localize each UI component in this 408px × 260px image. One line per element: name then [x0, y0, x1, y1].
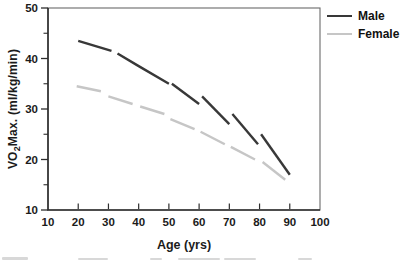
x-tick-label: 10 — [42, 216, 55, 228]
x-tick-label: 90 — [283, 216, 296, 228]
dash-segment — [108, 96, 132, 104]
y-tick-label: 50 — [25, 2, 38, 14]
dash-segment — [202, 96, 229, 124]
x-tick-label: 40 — [132, 216, 145, 228]
vo2max-vs-age-figure: 1020304050607080901001020304050 VO2Max. … — [0, 0, 408, 260]
legend-item-male: Male — [327, 7, 399, 25]
dash-segment — [140, 107, 164, 115]
dash-segment — [77, 86, 101, 91]
dash-segment — [170, 119, 194, 129]
x-tick-label: 20 — [72, 216, 85, 228]
x-tick-label: 50 — [162, 216, 175, 228]
y-axis-label: VO2Max. (ml/kg/min) — [6, 49, 20, 169]
y-axis-label-rest: Max. (ml/kg/min) — [6, 49, 20, 146]
scan-artifact — [2, 257, 28, 260]
series-female-line — [77, 86, 286, 179]
legend-item-female: Female — [327, 25, 399, 43]
male-line-swatch — [327, 15, 352, 18]
axis-lines — [48, 8, 320, 210]
plot-border — [48, 8, 320, 210]
y-tick-label: 20 — [25, 154, 38, 166]
dash-segment — [172, 84, 199, 104]
legend: Male Female — [327, 7, 399, 43]
x-axis-label: Age (yrs) — [157, 238, 211, 252]
y-axis-label-pre: VO — [6, 151, 20, 169]
dash-segment — [201, 132, 225, 145]
x-tick-label: 80 — [253, 216, 266, 228]
dash-segment — [232, 114, 258, 144]
dash-segment — [261, 134, 290, 174]
legend-label-female: Female — [358, 27, 399, 41]
y-axis-label-subscript: 2 — [12, 146, 22, 151]
x-tick-label: 70 — [223, 216, 236, 228]
y-tick-label: 40 — [25, 53, 38, 65]
series-male-line — [78, 41, 290, 175]
legend-label-male: Male — [358, 9, 385, 23]
x-tick-label: 30 — [102, 216, 115, 228]
female-line-swatch — [327, 33, 352, 36]
x-tick-label: 100 — [310, 216, 329, 228]
x-tick-label: 60 — [193, 216, 206, 228]
y-tick-label: 30 — [25, 103, 38, 115]
dash-segment — [118, 54, 169, 84]
y-tick-label: 10 — [25, 204, 38, 216]
dash-segment — [78, 41, 111, 51]
dash-segment — [231, 147, 255, 160]
